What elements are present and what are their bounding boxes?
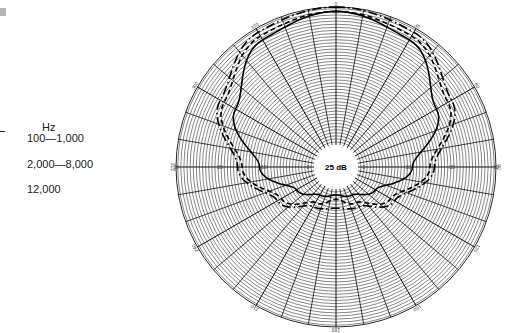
radial-label: 10 — [261, 164, 267, 170]
angle-label: 30 — [414, 22, 422, 30]
radial-label: 0 — [363, 164, 366, 170]
radial-label: 10 — [405, 164, 411, 170]
radial-label: 30 — [173, 164, 179, 170]
angle-label: 180 — [332, 327, 341, 333]
angle-label: 60 — [473, 82, 481, 90]
radial-label: 20 — [449, 164, 455, 170]
center-label: 25 dB — [325, 163, 347, 172]
radial-label: 0 — [307, 164, 310, 170]
radial-label: 20 — [217, 164, 223, 170]
angle-label: 0 — [335, 1, 338, 7]
radial-label: 30 — [493, 164, 499, 170]
polar-chart: 25 dB 0306090120150180210240270300330001… — [0, 0, 518, 333]
